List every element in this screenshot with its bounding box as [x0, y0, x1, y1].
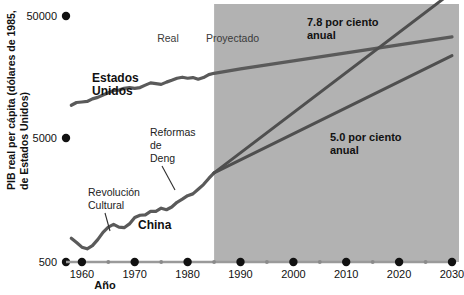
y-tick-dot-5000 [62, 134, 70, 142]
y-tick-label-5000: 5000 [33, 132, 57, 144]
x-tick-label-1960: 1960 [70, 268, 94, 280]
x-tick-label-1990: 1990 [228, 268, 252, 280]
x-tick-dot-2020 [395, 258, 403, 266]
x-tick-label-1980: 1980 [175, 268, 199, 280]
x-tick-dot-2000 [289, 258, 297, 266]
chart-container: Real Proyectado 50000 5000 500 PIB real … [0, 0, 464, 295]
y-axis-title-line2: de Estados Unidos) [18, 92, 30, 190]
x-tick-label-2020: 2020 [387, 268, 411, 280]
x-tick-dot-minor-1965 [106, 260, 110, 264]
projection-label-5-0-line1: 5.0 por ciento [330, 131, 402, 143]
x-tick-dot-minor-1975 [159, 260, 163, 264]
x-tick-dot-1970 [131, 258, 139, 266]
annotation-deng-line2: de [150, 139, 162, 151]
x-tick-dot-1990 [236, 258, 244, 266]
y-tick-dot-50000 [62, 12, 70, 20]
series-label-china: China [138, 218, 172, 232]
projection-label-5-0-line2: anual [330, 144, 359, 156]
region-label-real: Real [157, 32, 179, 44]
x-tick-dot-2010 [342, 258, 350, 266]
annotation-deng-line3: Deng [150, 152, 175, 164]
x-tick-label-2000: 2000 [281, 268, 305, 280]
x-tick-dot-1980 [183, 258, 191, 266]
x-tick-dot-minor-1995 [265, 260, 269, 264]
series-label-estados-unidos: Estados Unidos [92, 71, 139, 98]
projection-label-7-8-line1: 7.8 por ciento [307, 16, 379, 28]
y-tick-label-50000: 50000 [26, 10, 57, 22]
series-label-us-line1: Estados [92, 71, 139, 85]
projection-label-7-8-line2: anual [307, 29, 336, 41]
x-tick-dot-minor-2005 [318, 260, 322, 264]
x-tick-dot-minor-1985 [212, 260, 216, 264]
series-label-us-line2: Unidos [92, 84, 133, 98]
annotation-revolucion-line2: Cultural [88, 199, 124, 211]
annotation-deng-line1: Reformas [150, 126, 196, 138]
x-tick-dot-minor-2025 [424, 260, 428, 264]
y-tick-label-500: 500 [39, 256, 57, 268]
gdp-per-capita-chart: Real Proyectado 50000 5000 500 PIB real … [0, 0, 464, 295]
x-axis-title: Año [94, 279, 116, 291]
x-tick-dot-1960 [78, 258, 86, 266]
x-tick-label-2030: 2030 [440, 268, 464, 280]
x-tick-dot-minor-2015 [371, 260, 375, 264]
x-tick-dot-2030 [448, 258, 456, 266]
y-axis-title-line1: PIB real per cápita (dólares de 1985, [5, 10, 17, 190]
x-tick-label-2010: 2010 [334, 268, 358, 280]
region-label-proyectado: Proyectado [206, 32, 259, 44]
x-tick-label-1970: 1970 [122, 268, 146, 280]
annotation-revolucion-line1: Revolución [88, 186, 140, 198]
